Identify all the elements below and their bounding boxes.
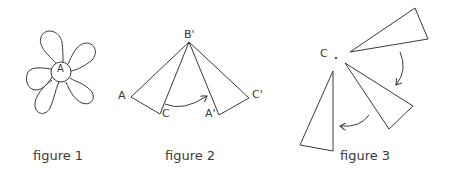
- petal-lower-right: [66, 78, 93, 104]
- caption-figure-3: figure 3: [340, 148, 390, 163]
- rotation-arrow-2: [340, 115, 369, 126]
- triangle-abc: [131, 42, 189, 114]
- petal-bottom: [35, 80, 59, 113]
- triangle-a-prime-c-prime: [189, 42, 249, 115]
- label-c-prime: C': [252, 88, 263, 101]
- label-b-prime: B': [184, 28, 195, 41]
- caption-figure-1: figure 1: [33, 148, 83, 163]
- center-point-c: [335, 57, 337, 59]
- diagram-canvas: [0, 0, 450, 171]
- figure-3-rotation: [300, 8, 428, 151]
- figure-2-rotation: [131, 42, 249, 115]
- rotation-arrow-1: [396, 52, 403, 85]
- label-a: A: [118, 89, 126, 102]
- label-a-prime: A': [205, 107, 216, 120]
- label-c-figure-3: C: [320, 47, 328, 60]
- triangle-position-1: [350, 8, 428, 52]
- label-c: C: [162, 107, 170, 120]
- caption-figure-2: figure 2: [165, 148, 215, 163]
- petal-left: [26, 68, 52, 90]
- triangle-position-3: [300, 71, 333, 151]
- petal-top: [40, 31, 63, 63]
- rotation-arrow: [165, 96, 207, 107]
- petal-upper-right: [68, 43, 95, 71]
- label-a-figure-1: A: [57, 63, 64, 74]
